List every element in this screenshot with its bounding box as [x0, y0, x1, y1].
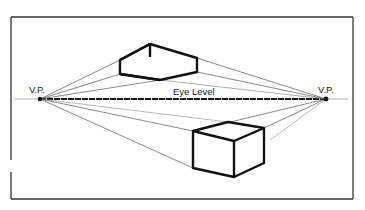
left-vp-label: V.P.	[29, 84, 45, 95]
eye-level-label: Eye Level	[173, 86, 215, 97]
frame	[11, 17, 353, 199]
upper-box	[120, 44, 197, 80]
left-vp-dot	[38, 97, 42, 101]
right-vp-label: V.P.	[318, 84, 334, 95]
lower-box	[193, 122, 264, 177]
right-vp-dot	[324, 97, 329, 102]
perspective-diagram: V.P. V.P. Eye Level	[0, 0, 365, 210]
